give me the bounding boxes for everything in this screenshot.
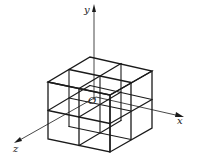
axes [14,4,184,143]
y-axis-label: y [83,4,90,15]
origin-label: O [88,95,96,106]
y-axis-arrow-icon [92,4,96,12]
interior-grid [48,64,152,146]
z-axis-label: z [12,143,19,154]
z-axis [18,97,96,141]
cube-diagram: y x z O [0,0,197,165]
x-axis-label: x [177,115,183,126]
cube [48,57,152,152]
